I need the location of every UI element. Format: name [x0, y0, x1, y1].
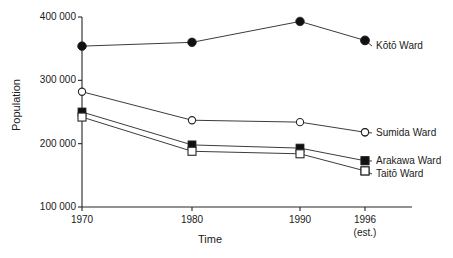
axis-lines — [78, 17, 412, 211]
x-tick-label: 1970 — [52, 214, 112, 225]
y-tick-label: 400 000 — [20, 11, 76, 22]
series-label-3: Arakawa Ward — [376, 155, 441, 166]
series-label-4: Taitō Ward — [376, 168, 423, 179]
x-tick-sublabel: (est.) — [335, 227, 395, 238]
y-tick-label: 100 000 — [20, 201, 76, 212]
y-tick-label: 300 000 — [20, 74, 76, 85]
series-lines — [78, 17, 370, 175]
series-label-1: Kōtō Ward — [376, 40, 423, 51]
y-axis-title: Population — [10, 79, 22, 131]
series-label-2: Sumida Ward — [376, 127, 436, 138]
x-tick-label: 1980 — [162, 214, 222, 225]
x-tick-label: 1990 — [270, 214, 330, 225]
y-tick-label: 200 000 — [20, 138, 76, 149]
x-tick-label: 1996 — [335, 214, 395, 225]
population-line-chart: Population Time 400 000300 000200 000100… — [0, 0, 453, 258]
legend-leader-lines — [361, 36, 372, 175]
